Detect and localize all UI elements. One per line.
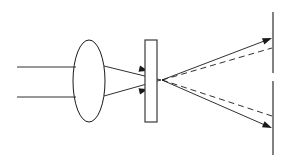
- diagram-canvas: [0, 0, 291, 163]
- diverging-ray-lower-arrowhead: [262, 121, 273, 131]
- optical-ray-diagram: [0, 0, 291, 163]
- diverging-solid-rays: [162, 35, 273, 131]
- diverging-ray-upper: [162, 39, 269, 80]
- diverging-ray-upper-arrowhead: [262, 35, 273, 45]
- diverging-dashed-rays: [162, 48, 272, 116]
- dashed-ray-upper: [162, 48, 272, 80]
- incoming-parallel-rays: [17, 67, 76, 97]
- dashed-ray-lower: [162, 80, 272, 116]
- converging-lens: [73, 40, 105, 122]
- aperture-slit: [145, 40, 157, 122]
- diverging-ray-lower: [162, 80, 269, 127]
